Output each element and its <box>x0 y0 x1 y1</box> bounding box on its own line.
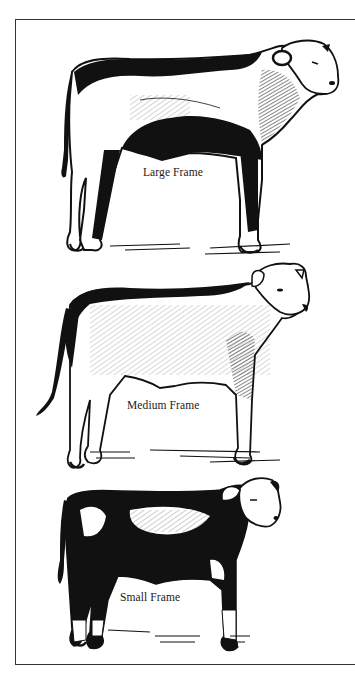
medium-frame-label: Medium Frame <box>127 399 199 411</box>
medium-frame-calf <box>36 264 309 468</box>
large-frame-calf <box>61 41 338 254</box>
small-frame-label: Small Frame <box>120 591 180 603</box>
small-frame-calf <box>58 478 281 650</box>
large-frame-label: Large Frame <box>143 166 203 178</box>
